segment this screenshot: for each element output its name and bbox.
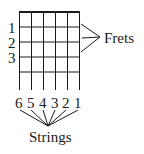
string-label-3: 3 (51, 95, 59, 111)
string-label-6: 6 (15, 95, 23, 111)
string-label-1: 1 (74, 95, 82, 111)
strings-label: Strings (29, 129, 72, 145)
frets-label: Frets (104, 30, 134, 46)
fret-lines (19, 27, 80, 72)
fret-label-1: 1 (8, 20, 16, 36)
strings-pointer-lines (20, 110, 78, 126)
frets-pointer-lines (81, 24, 100, 52)
string-label-4: 4 (39, 95, 47, 111)
string-label-5: 5 (27, 95, 35, 111)
fret-label-2: 2 (8, 35, 16, 51)
fret-label-3: 3 (8, 50, 16, 66)
string-lines (20, 12, 80, 90)
chord-chart-diagram: 1 2 3 Frets 6 5 4 3 2 1 Strings (0, 0, 144, 154)
string-label-2: 2 (62, 95, 70, 111)
